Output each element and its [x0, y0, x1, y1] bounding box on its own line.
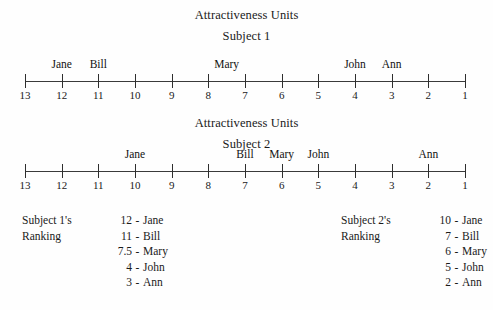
ranking-subject-1-caption-line1: Subject 1's	[22, 213, 102, 229]
point-label-john: John	[307, 148, 329, 161]
panel-1-subtitle: Subject 1	[0, 29, 493, 44]
axis-tick-label: 10	[130, 89, 141, 101]
panel-1-subtitle-block: Subject 1	[0, 29, 493, 44]
axis-tick	[465, 164, 466, 178]
axis-tick	[172, 74, 173, 88]
scale-subject-2-inner: 13121110987654321 JaneBillMaryJohnAnn	[25, 148, 465, 194]
axis-tick-label: 5	[316, 179, 322, 191]
ranking-name: John	[462, 260, 484, 276]
ranking-dash: -	[451, 260, 462, 276]
axis-tick	[25, 74, 26, 88]
ranking-name: John	[143, 260, 165, 276]
ranking-row: 7-Bill	[427, 229, 487, 245]
axis-tick	[98, 74, 99, 88]
ranking-row: 5-John	[427, 260, 487, 276]
figure-canvas: Attractiveness Units Subject 1 131211109…	[0, 0, 493, 310]
scale-subject-1: 13121110987654321 JaneBillMaryJohnAnn	[0, 58, 493, 104]
point-label-ann: Ann	[382, 58, 402, 71]
ranking-dash: -	[451, 275, 462, 291]
ranking-dash: -	[451, 229, 462, 245]
ranking-name: Jane	[143, 213, 163, 229]
point-label-mary: Mary	[214, 58, 239, 71]
ranking-name: Mary	[462, 244, 487, 260]
ranking-row: 11-Bill	[108, 229, 168, 245]
axis-tick-label: 12	[56, 89, 67, 101]
ranking-value: 5	[427, 260, 451, 276]
axis-tick-label: 4	[352, 179, 358, 191]
axis-tick	[25, 164, 26, 178]
axis-tick-label: 3	[389, 89, 395, 101]
panel-2-title: Attractiveness Units	[0, 116, 493, 131]
axis-tick-label: 13	[20, 89, 31, 101]
axis-tick-label: 6	[279, 89, 285, 101]
ranking-row: 10-Jane	[427, 213, 487, 229]
ranking-dash: -	[132, 260, 143, 276]
ranking-name: Mary	[143, 244, 168, 260]
ranking-row: 2-Ann	[427, 275, 487, 291]
axis-tick	[428, 74, 429, 88]
axis-tick	[428, 164, 429, 178]
point-label-bill: Bill	[90, 58, 107, 71]
axis-tick	[318, 164, 319, 178]
ranking-row: 4-John	[108, 260, 168, 276]
ranking-value: 10	[427, 213, 451, 229]
ranking-name: Jane	[462, 213, 482, 229]
axis-tick	[465, 74, 466, 88]
ranking-row: 3-Ann	[108, 275, 168, 291]
axis-tick-label: 8	[206, 89, 212, 101]
axis-tick-label: 1	[462, 179, 468, 191]
ranking-value: 12	[108, 213, 132, 229]
axis-tick	[355, 74, 356, 88]
ranking-value: 2	[427, 275, 451, 291]
axis-tick-label: 2	[426, 179, 432, 191]
ranking-subject-1-caption-line2: Ranking	[22, 229, 102, 245]
point-label-ann: Ann	[418, 148, 438, 161]
ranking-value: 4	[108, 260, 132, 276]
axis-tick-label: 13	[20, 179, 31, 191]
axis-tick-label: 2	[426, 89, 432, 101]
axis-tick	[282, 164, 283, 178]
axis-tick-label: 8	[206, 179, 212, 191]
axis-tick-label: 4	[352, 89, 358, 101]
panel-2-title-block: Attractiveness Units	[0, 116, 493, 131]
axis-tick	[135, 164, 136, 178]
axis-tick	[318, 74, 319, 88]
scale-subject-2: 13121110987654321 JaneBillMaryJohnAnn	[0, 148, 493, 194]
ranking-subject-2-caption-line1: Subject 2's	[341, 213, 421, 229]
axis-tick	[245, 164, 246, 178]
scale-subject-1-inner: 13121110987654321 JaneBillMaryJohnAnn	[25, 58, 465, 104]
ranking-name: Ann	[462, 275, 482, 291]
panel-1-title: Attractiveness Units	[0, 8, 493, 23]
axis-tick	[98, 164, 99, 178]
ranking-value: 6	[427, 244, 451, 260]
axis-tick	[208, 74, 209, 88]
panel-1-title-block: Attractiveness Units	[0, 8, 493, 23]
axis-tick-label: 9	[169, 89, 175, 101]
ranking-name: Ann	[143, 275, 163, 291]
ranking-dash: -	[132, 244, 143, 260]
ranking-value: 7.5	[108, 244, 132, 260]
ranking-row: 6-Mary	[427, 244, 487, 260]
axis-tick-label: 10	[130, 179, 141, 191]
ranking-row: 12-Jane	[108, 213, 168, 229]
ranking-subject-2: Subject 2's Ranking 10-Jane7-Bill6-Mary5…	[341, 213, 487, 291]
ranking-dash: -	[451, 213, 462, 229]
point-label-mary: Mary	[269, 148, 294, 161]
axis-tick-label: 11	[93, 89, 104, 101]
ranking-name: Bill	[462, 229, 479, 245]
ranking-dash: -	[132, 213, 143, 229]
point-label-jane: Jane	[125, 148, 145, 161]
ranking-subject-2-list: 10-Jane7-Bill6-Mary5-John2-Ann	[427, 213, 487, 291]
ranking-dash: -	[451, 244, 462, 260]
axis-tick	[172, 164, 173, 178]
axis-tick-label: 7	[242, 179, 248, 191]
ranking-dash: -	[132, 229, 143, 245]
axis-tick	[392, 164, 393, 178]
ranking-row: 7.5-Mary	[108, 244, 168, 260]
axis-tick-label: 12	[56, 179, 67, 191]
ranking-name: Bill	[143, 229, 160, 245]
ranking-value: 3	[108, 275, 132, 291]
ranking-subject-2-caption-line2: Ranking	[341, 229, 421, 245]
axis-tick-label: 5	[316, 89, 322, 101]
ranking-subject-1: Subject 1's Ranking 12-Jane11-Bill7.5-Ma…	[22, 213, 168, 291]
